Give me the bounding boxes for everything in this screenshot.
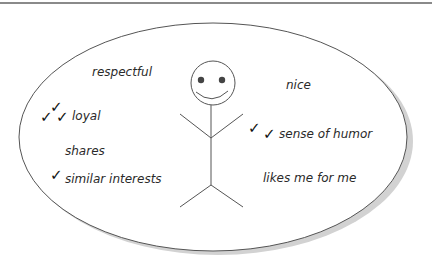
diagram-canvas: respectful nice ✓ ✓ ✓ loyal ✓ ✓ sense of… <box>0 0 432 273</box>
check-icon-loyal-3: ✓ <box>56 108 69 126</box>
check-icon-humor-2: ✓ <box>263 125 276 143</box>
figure-left-eye <box>198 77 204 83</box>
quality-nice: nice <box>286 78 311 92</box>
quality-respectful: respectful <box>92 65 153 79</box>
quality-sense-of-humor: sense of humor <box>279 127 373 141</box>
check-icon-humor-1: ✓ <box>248 119 261 137</box>
check-icon-similar-interests: ✓ <box>50 166 63 184</box>
quality-shares: shares <box>65 144 105 158</box>
figure-right-eye <box>219 77 225 83</box>
quality-likes-me-for-me: likes me for me <box>263 171 356 185</box>
quality-similar-interests: similar interests <box>65 172 162 186</box>
quality-loyal: loyal <box>72 109 101 123</box>
